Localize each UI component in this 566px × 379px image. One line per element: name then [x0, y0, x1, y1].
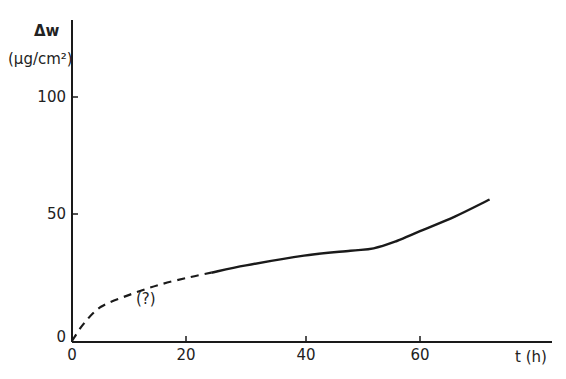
x-axis — [72, 336, 552, 342]
x-tick-label-40: 40 — [286, 346, 326, 364]
x-axis-label: t (h) — [515, 348, 547, 366]
x-tick-label-0: 0 — [52, 346, 92, 364]
y-tick-label-100: 100 — [26, 88, 66, 106]
uncertainty-annotation: (?) — [136, 290, 156, 308]
y-axis — [72, 20, 78, 342]
x-tick-label-20: 20 — [166, 346, 206, 364]
chart-canvas — [0, 0, 566, 379]
x-tick-label-60: 60 — [400, 346, 440, 364]
y-axis-label-symbol: Δw — [34, 22, 59, 40]
y-tick-label-50: 50 — [26, 205, 66, 223]
y-tick-label-0: 0 — [26, 328, 66, 346]
y-axis-label-unit: (μg/cm²) — [8, 50, 73, 68]
solid-curve-series — [211, 200, 489, 273]
